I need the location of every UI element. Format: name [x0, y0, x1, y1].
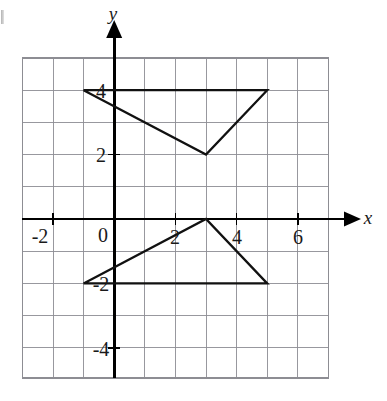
x-tick-label-6: 6: [293, 226, 303, 248]
y-tick-label-4: 4: [96, 80, 106, 102]
y-axis-label: y: [107, 3, 118, 24]
coordinate-grid-svg: -2 0 2 4 6 4 2 -2 -4 x y: [0, 0, 387, 401]
x-tick-label-2: 2: [170, 226, 180, 248]
x-axis-arrow-icon: [344, 212, 361, 227]
x-tick-label-0: 0: [98, 224, 108, 246]
x-axis-label: x: [363, 207, 373, 228]
x-tick-label-neg2: -2: [32, 225, 49, 247]
y-tick-label-neg2: -2: [93, 273, 110, 295]
y-tick-label-2: 2: [96, 144, 106, 166]
scan-edge-artifact: [1, 10, 4, 24]
coordinate-plane-figure: -2 0 2 4 6 4 2 -2 -4 x y: [0, 0, 387, 401]
y-tick-label-neg4: -4: [93, 338, 110, 360]
x-tick-label-4: 4: [232, 226, 242, 248]
